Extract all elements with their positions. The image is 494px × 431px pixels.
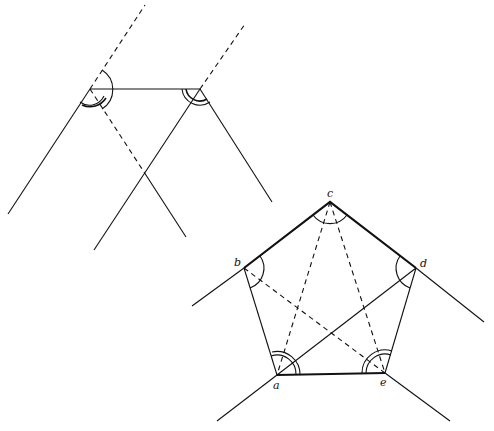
geometry-figure: [0, 0, 494, 431]
diagram: c b d a e: [0, 0, 494, 431]
vertex-label-d: d: [420, 257, 427, 270]
vertex-label-e: e: [380, 376, 387, 389]
vertex-label-c: c: [327, 187, 333, 200]
angle-transfer-figure: [8, 5, 272, 250]
pentagon-figure: [192, 202, 484, 421]
vertex-label-a: a: [273, 379, 280, 392]
vertex-label-b: b: [234, 256, 241, 269]
